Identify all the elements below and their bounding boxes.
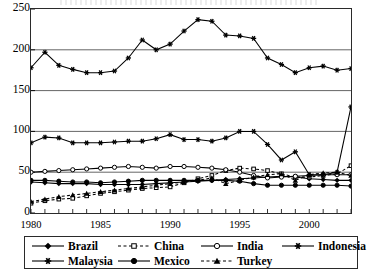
x-axis-label: 1995	[220, 219, 260, 230]
legend-symbol	[200, 255, 234, 267]
data-point-marker	[224, 168, 228, 172]
data-point-marker	[252, 167, 256, 171]
data-point-marker	[131, 258, 136, 263]
data-point-marker	[126, 179, 130, 183]
data-point-marker	[132, 243, 137, 248]
data-point-marker	[45, 242, 52, 249]
y-axis-label: 200	[4, 43, 30, 54]
y-axis-label: 50	[4, 165, 30, 176]
data-point-marker	[126, 139, 131, 144]
data-point-marker	[334, 178, 339, 183]
data-point-marker	[43, 178, 47, 182]
data-point-marker	[31, 178, 33, 182]
data-point-marker	[43, 169, 47, 173]
data-point-marker	[85, 180, 89, 184]
data-point-marker	[98, 70, 103, 75]
legend-item-turkey[interactable]: Turkey	[200, 253, 272, 268]
data-point-marker	[140, 165, 144, 169]
data-point-marker	[349, 164, 351, 168]
data-point-marker	[334, 68, 339, 73]
data-point-marker	[154, 166, 158, 170]
x-axis-label: 1985	[81, 219, 121, 230]
data-point-marker	[209, 139, 214, 144]
data-point-marker	[45, 258, 52, 264]
legend-item-india[interactable]: India	[200, 238, 263, 253]
data-point-marker	[140, 139, 145, 144]
legend-symbol	[31, 240, 65, 252]
data-point-marker	[238, 166, 242, 170]
legend-row-2: MalaysiaMexicoTurkey	[25, 253, 357, 268]
legend-symbol	[31, 255, 65, 267]
data-point-marker	[70, 67, 75, 72]
data-point-marker	[71, 168, 75, 172]
data-point-marker	[71, 180, 75, 184]
scan-artifact-top	[60, 0, 320, 5]
legend-symbol	[281, 240, 315, 252]
legend-item-indonesia[interactable]: Indonesia	[281, 238, 366, 253]
data-point-marker	[56, 194, 61, 199]
chart-legend: BrazilChinaIndiaIndonesia MalaysiaMexico…	[24, 236, 358, 269]
data-point-marker	[85, 167, 89, 171]
x-axis-label: 2000	[289, 219, 329, 230]
legend-label: Turkey	[237, 255, 272, 267]
data-point-marker	[238, 170, 242, 174]
data-point-marker	[196, 165, 200, 169]
legend-label: Indonesia	[318, 240, 366, 252]
data-point-marker	[57, 179, 61, 183]
y-axis: 250200150100500	[0, 0, 30, 222]
data-point-marker	[266, 169, 270, 173]
data-point-marker	[168, 132, 173, 137]
legend-label: Brazil	[68, 240, 98, 252]
data-point-marker	[84, 70, 89, 75]
data-point-marker	[195, 137, 200, 142]
data-point-marker	[265, 183, 269, 187]
data-point-marker	[126, 164, 130, 168]
chart-figure: 250200150100500 19801985199019952000 Bra…	[0, 0, 381, 277]
legend-label: China	[154, 240, 184, 252]
data-point-marker	[295, 243, 302, 249]
data-point-marker	[57, 168, 61, 172]
legend-label: Mexico	[154, 255, 190, 267]
data-point-marker	[112, 165, 116, 169]
data-point-marker	[348, 105, 351, 110]
legend-item-china[interactable]: China	[117, 238, 184, 253]
series-line	[31, 20, 351, 73]
legend-symbol	[117, 240, 151, 252]
legend-symbol	[117, 255, 151, 267]
plot-svg	[31, 9, 351, 213]
data-point-marker	[112, 140, 117, 145]
data-point-marker	[335, 183, 339, 187]
legend-label: Malaysia	[68, 255, 113, 267]
data-point-marker	[84, 141, 89, 146]
series-line	[31, 107, 351, 175]
data-point-marker	[168, 164, 172, 168]
data-point-marker	[31, 170, 33, 174]
data-point-marker	[348, 66, 351, 71]
data-point-marker	[321, 183, 325, 187]
series-turkey	[31, 170, 351, 204]
data-point-marker	[349, 184, 351, 188]
series-malaysia	[31, 105, 351, 177]
data-point-marker	[31, 66, 34, 71]
legend-symbol	[200, 240, 234, 252]
legend-item-mexico[interactable]: Mexico	[117, 253, 190, 268]
legend-item-brazil[interactable]: Brazil	[31, 238, 98, 253]
x-axis-label: 1980	[11, 219, 51, 230]
data-point-marker	[154, 136, 159, 141]
data-point-marker	[98, 141, 103, 146]
series-china	[31, 164, 351, 205]
data-point-marker	[214, 243, 219, 248]
data-point-marker	[98, 181, 102, 185]
data-point-marker	[182, 164, 186, 168]
x-axis-label: 1990	[150, 219, 190, 230]
data-point-marker	[321, 64, 326, 69]
data-point-marker	[252, 182, 256, 186]
data-point-marker	[293, 183, 297, 187]
legend-label: India	[237, 240, 263, 252]
data-point-marker	[307, 66, 312, 71]
y-axis-label: 150	[4, 84, 30, 95]
data-point-marker	[223, 136, 228, 141]
legend-item-malaysia[interactable]: Malaysia	[31, 253, 113, 268]
data-point-marker	[251, 36, 256, 41]
x-axis: 19801985199019952000	[0, 216, 381, 232]
